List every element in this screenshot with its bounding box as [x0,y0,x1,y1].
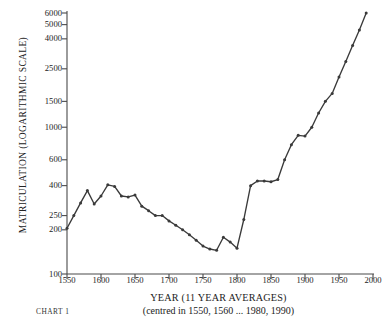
data-point [229,241,232,244]
x-axis-title: YEAR (11 YEAR AVERAGES) [60,292,377,303]
data-point [161,214,164,217]
data-point [168,219,171,222]
data-point [181,228,184,231]
data-series-markers [66,12,368,252]
x-axis-tick-labels: 1550160016501700175018001850190019502000 [0,276,377,292]
data-point [113,185,116,188]
data-point [242,218,245,221]
data-point [93,202,96,205]
data-point [236,247,239,250]
data-point [283,158,286,161]
data-point [263,180,266,183]
data-point [208,248,211,251]
data-point [100,194,103,197]
data-point [72,214,75,217]
data-point [304,135,307,138]
x-axis-subtitle: (centred in 1550, 1560 ... 1980, 1990) [60,305,377,316]
data-point [324,100,327,103]
data-point [331,92,334,95]
data-point [147,209,150,212]
data-point [188,233,191,236]
data-point [106,183,109,186]
data-point [140,205,143,208]
data-point [66,227,69,230]
chart-number-label: CHART 1 [36,307,70,316]
axis-caption: YEAR (11 YEAR AVERAGES) (centred in 1550… [60,292,377,316]
data-point [222,236,225,239]
data-point [174,224,177,227]
axis-lines [67,11,374,274]
data-point [351,44,354,47]
data-point [120,194,123,197]
data-series-line [67,13,366,250]
data-point [344,60,347,63]
data-point [276,178,279,181]
y-axis-ticks [62,13,67,274]
data-point [154,214,157,217]
data-point [249,184,252,187]
x-axis-tick-label: 2000 [353,276,386,285]
data-point [338,75,341,78]
data-point [79,201,82,204]
data-point [215,249,218,252]
data-point [195,239,198,242]
data-point [297,134,300,137]
data-point [127,195,130,198]
data-point [134,194,137,197]
data-point [256,180,259,183]
data-point [86,189,89,192]
data-point [310,126,313,129]
data-point [202,245,205,248]
data-point [358,28,361,31]
data-point [270,180,273,183]
data-point [365,12,368,15]
data-point [317,111,320,114]
data-point [290,143,293,146]
